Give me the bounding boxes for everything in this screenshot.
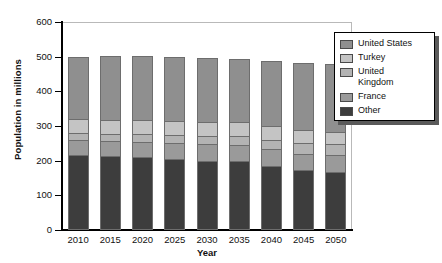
y-tick-label: 400: [12, 85, 52, 96]
bar-segment[interactable]: [293, 154, 314, 171]
bar-segment[interactable]: [164, 135, 185, 143]
bar-segment[interactable]: [293, 130, 314, 143]
bar-segment[interactable]: [229, 59, 250, 122]
legend-item[interactable]: Turkey: [340, 52, 430, 65]
legend-swatch-icon: [340, 107, 353, 116]
y-tick-label: 100: [12, 189, 52, 200]
bar-segment[interactable]: [197, 136, 218, 145]
bar-segment[interactable]: [100, 134, 121, 141]
legend-item[interactable]: United States: [340, 38, 430, 51]
legend-swatch-icon: [340, 40, 353, 49]
bar-segment[interactable]: [325, 144, 346, 155]
bar-group[interactable]: [68, 22, 89, 230]
legend-label: United States: [358, 38, 412, 49]
bar-segment[interactable]: [261, 149, 282, 166]
bar-segment[interactable]: [68, 119, 89, 133]
bar-segment[interactable]: [68, 140, 89, 156]
bar-segment[interactable]: [100, 141, 121, 157]
bar-segment[interactable]: [100, 156, 121, 230]
bar-segment[interactable]: [261, 140, 282, 150]
legend-label: France: [358, 91, 386, 102]
stacked-bar-chart: Population in millions 01002003004005006…: [0, 0, 442, 263]
bar-segment[interactable]: [197, 144, 218, 160]
y-tick-label: 0: [12, 224, 52, 235]
bar-segment[interactable]: [197, 161, 218, 230]
bar-segment[interactable]: [164, 143, 185, 159]
bar-segment[interactable]: [100, 56, 121, 120]
bar-group[interactable]: [293, 22, 314, 230]
bar-segment[interactable]: [164, 57, 185, 121]
bar-segment[interactable]: [293, 63, 314, 130]
bar-series-container: [62, 22, 352, 230]
y-tick-label: 300: [12, 120, 52, 131]
bar-segment[interactable]: [68, 133, 89, 140]
x-axis-title: Year: [62, 247, 352, 258]
bar-segment[interactable]: [325, 155, 346, 172]
bar-segment[interactable]: [132, 56, 153, 120]
bar-segment[interactable]: [261, 61, 282, 125]
legend-item[interactable]: United Kingdom: [340, 66, 430, 90]
bar-segment[interactable]: [261, 126, 282, 140]
bar-segment[interactable]: [293, 170, 314, 230]
bar-segment[interactable]: [68, 155, 89, 230]
legend: United StatesTurkeyUnited KingdomFranceO…: [334, 32, 435, 121]
bar-segment[interactable]: [293, 143, 314, 153]
bar-segment[interactable]: [229, 145, 250, 161]
legend-label: United Kingdom: [358, 66, 394, 88]
bar-segment[interactable]: [229, 122, 250, 136]
bar-segment[interactable]: [261, 166, 282, 230]
bar-segment[interactable]: [164, 159, 185, 230]
bar-group[interactable]: [229, 22, 250, 230]
y-tick-label: 600: [12, 16, 52, 27]
y-tick-label: 500: [12, 51, 52, 62]
bar-segment[interactable]: [164, 121, 185, 135]
legend-item[interactable]: France: [340, 91, 430, 104]
bar-segment[interactable]: [229, 136, 250, 145]
legend-label: Turkey: [358, 52, 385, 63]
bar-group[interactable]: [261, 22, 282, 230]
legend-swatch-icon: [340, 68, 353, 77]
legend-swatch-icon: [340, 54, 353, 63]
y-tick-mark: [55, 230, 63, 231]
bar-segment[interactable]: [325, 172, 346, 230]
bar-segment[interactable]: [325, 132, 346, 145]
bar-group[interactable]: [132, 22, 153, 230]
x-tick-label: 2050: [314, 234, 358, 245]
bar-segment[interactable]: [132, 120, 153, 134]
bar-group[interactable]: [164, 22, 185, 230]
legend-swatch-icon: [340, 93, 353, 102]
y-tick-label: 200: [12, 155, 52, 166]
bar-group[interactable]: [197, 22, 218, 230]
bar-segment[interactable]: [132, 157, 153, 230]
bar-segment[interactable]: [100, 120, 121, 134]
bar-segment[interactable]: [132, 134, 153, 142]
legend-item[interactable]: Other: [340, 105, 430, 118]
bar-group[interactable]: [100, 22, 121, 230]
bar-segment[interactable]: [68, 57, 89, 119]
bar-segment[interactable]: [197, 122, 218, 136]
bar-segment[interactable]: [132, 142, 153, 158]
bar-segment[interactable]: [197, 58, 218, 122]
legend-label: Other: [358, 105, 381, 116]
bar-segment[interactable]: [229, 161, 250, 230]
